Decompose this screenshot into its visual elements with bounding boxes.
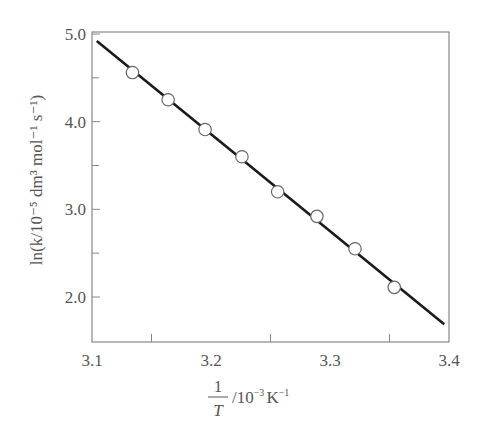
arrhenius-plot: 3.13.23.33.4 2.03.04.05.0 1 T /10−3K−1 l… xyxy=(0,0,482,431)
x-tick-label: 3.4 xyxy=(438,351,460,370)
y-tick-label: 3.0 xyxy=(65,200,86,219)
x-label-unit: /10−3K−1 xyxy=(232,387,289,407)
x-tick-label: 3.1 xyxy=(81,351,102,370)
data-point-marker xyxy=(271,186,283,198)
x-axis-ticks: 3.13.23.33.4 xyxy=(81,334,460,370)
y-axis-label: ln(k/10⁻⁵ dm³ mol⁻¹ s⁻¹) xyxy=(27,95,46,265)
plot-frame xyxy=(92,32,449,342)
data-point-marker xyxy=(311,210,323,222)
y-tick-label: 2.0 xyxy=(65,288,86,307)
x-label-denominator: T xyxy=(213,401,224,420)
y-tick-label: 5.0 xyxy=(65,25,86,44)
x-tick-label: 3.3 xyxy=(319,351,340,370)
data-point-marker xyxy=(126,66,138,78)
data-point-marker xyxy=(236,151,248,163)
y-axis-ticks: 2.03.04.05.0 xyxy=(65,25,100,307)
x-axis-label: 1 T /10−3K−1 xyxy=(208,377,289,420)
data-point-marker xyxy=(199,123,211,135)
data-point-marker xyxy=(162,94,174,106)
data-point-marker xyxy=(349,243,361,255)
x-label-numerator: 1 xyxy=(214,377,223,396)
x-tick-label: 3.2 xyxy=(200,351,221,370)
data-point-marker xyxy=(388,281,400,293)
data-points xyxy=(126,66,400,293)
y-tick-label: 4.0 xyxy=(65,113,86,132)
